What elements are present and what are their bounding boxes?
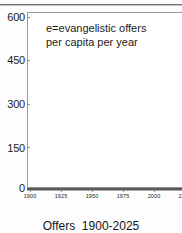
y-tick-label: 0	[1, 183, 25, 194]
x-axis-tick	[92, 190, 93, 192]
y-axis-tick	[27, 104, 30, 105]
x-tick-label: 1950	[86, 193, 99, 199]
x-axis-tick	[30, 190, 31, 192]
y-tick-label: 150	[1, 143, 25, 154]
chart-annotation: e=evangelistic offers per capita per yea…	[46, 22, 146, 49]
x-axis-tick	[123, 190, 124, 192]
y-axis: 600 450 300 150 0	[0, 0, 25, 233]
x-tick-label: 1975	[117, 193, 130, 199]
x-tick-label: 1925	[55, 193, 68, 199]
y-tick-label: 600	[1, 12, 25, 23]
y-axis-tick	[27, 147, 30, 148]
x-axis-tick	[61, 190, 62, 192]
y-axis-tick	[27, 60, 30, 61]
y-axis-tick	[27, 17, 30, 18]
y-tick-label: 300	[1, 99, 25, 110]
x-tick-label: 1900	[24, 193, 37, 199]
chart-figure: 600 450 300 150 0 1900 1925 1950 1975 20…	[0, 0, 182, 233]
x-axis-tick	[154, 190, 155, 192]
x-tick-label: 2000	[148, 193, 161, 199]
x-axis-line-shadow	[27, 190, 182, 191]
top-divider-rule-shadow	[0, 5, 182, 6]
y-tick-label: 450	[1, 55, 25, 66]
chart-caption: Offers 1900-2025	[0, 219, 182, 233]
x-tick-label-clipped: 2	[178, 193, 181, 199]
